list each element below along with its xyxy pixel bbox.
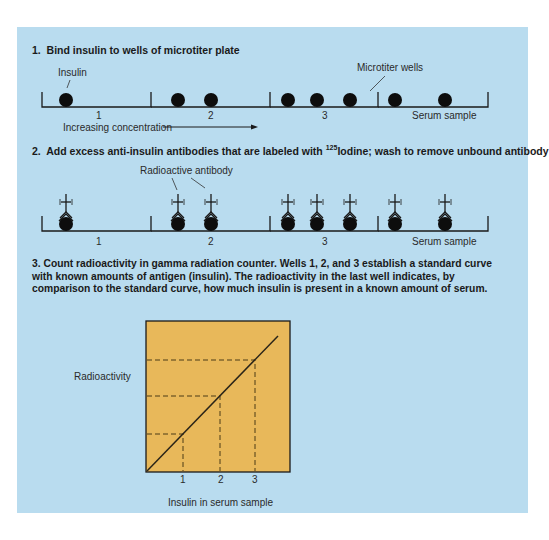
labeled-antibody-complexes [59,194,452,231]
insulin-molecules-row1 [59,93,452,107]
microtiter-wells-pointer [370,76,385,91]
antibody-pointer-1 [172,178,177,190]
standard-curve-chart [146,321,290,472]
increasing-concentration-arrow [163,125,258,130]
microtiter-plate-row2 [42,216,488,231]
microtiter-plate-row1 [42,92,488,107]
insulin-pointer [67,80,70,88]
antibody-pointer-2 [191,178,205,188]
